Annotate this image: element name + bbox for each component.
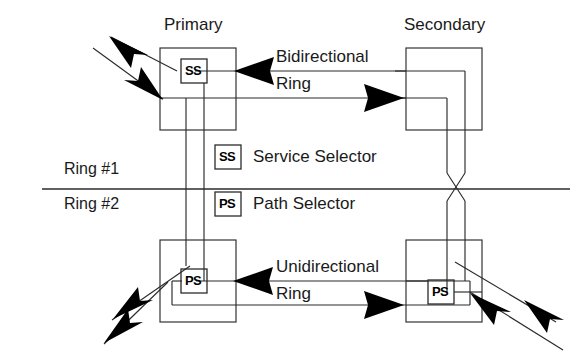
arrow-tributary-br-in-1 bbox=[470, 293, 511, 325]
ring-label-upper: Ring #1 bbox=[64, 161, 119, 178]
legend-ps-description: Path Selector bbox=[253, 195, 355, 213]
arrow-tributary-bl-out-2 bbox=[104, 309, 143, 343]
legend-ps-symbol: PS bbox=[219, 196, 235, 211]
secondary-node-title: Secondary bbox=[404, 16, 485, 34]
primary-node-title: Primary bbox=[164, 16, 223, 34]
arrow-bidirectional-left bbox=[234, 57, 274, 85]
bidirectional-ring-label-line1: Bidirectional bbox=[276, 48, 369, 66]
ring-label-lower: Ring #2 bbox=[64, 196, 119, 213]
primary-service-selector-label: SS bbox=[185, 63, 201, 78]
unidirectional-ring-label-line1: Unidirectional bbox=[276, 258, 379, 276]
primary-node-box bbox=[160, 48, 236, 130]
bottom-left-path-selector-label: PS bbox=[185, 273, 201, 288]
arrow-unidirectional-right bbox=[364, 291, 404, 319]
arrow-tributary-primary-in bbox=[124, 67, 163, 100]
legend-ss-symbol: SS bbox=[219, 149, 235, 164]
diagram-canvas: Primary Secondary SS PS PS Bidirectional… bbox=[0, 0, 575, 358]
bottom-right-path-selector-label: PS bbox=[432, 284, 448, 299]
arrow-bidirectional-right bbox=[364, 84, 404, 112]
arrow-unidirectional-left bbox=[233, 267, 273, 295]
legend-ss-description: Service Selector bbox=[253, 148, 377, 166]
arrow-tributary-br-in-2 bbox=[524, 300, 564, 333]
arrow-tributary-primary-out bbox=[109, 36, 148, 68]
unidirectional-ring-label-line2: Ring bbox=[276, 285, 311, 303]
bidirectional-ring-label-line2: Ring bbox=[276, 75, 311, 93]
secondary-node-box bbox=[406, 48, 482, 130]
